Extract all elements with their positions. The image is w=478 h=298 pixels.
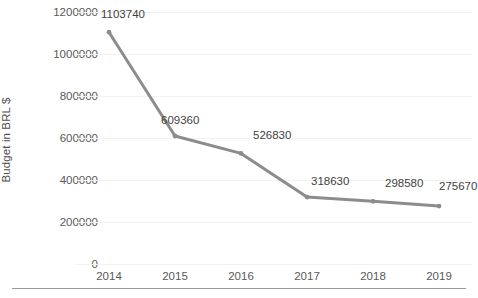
data-point-marker [173, 134, 178, 139]
x-tick-label: 2019 [409, 270, 469, 283]
data-point-label: 298580 [385, 177, 423, 189]
x-tick-label: 2015 [145, 270, 205, 283]
data-point-marker [107, 30, 112, 35]
x-tick-label: 2017 [277, 270, 337, 283]
data-point-marker [239, 151, 244, 156]
bottom-rule [12, 288, 466, 289]
x-axis-tick-labels: 201420152016201720182019 [76, 270, 472, 286]
data-point-label: 1103740 [101, 8, 145, 20]
data-point-marker [305, 195, 310, 200]
data-point-label: 318630 [311, 175, 349, 187]
data-point-label: 275670 [439, 180, 477, 192]
x-tick-label: 2016 [211, 270, 271, 283]
x-tick-label: 2014 [79, 270, 139, 283]
data-point-marker [437, 204, 442, 209]
line-chart: Budget in BRL $ 020000040000060000080000… [0, 0, 478, 298]
data-point-label: 609360 [161, 114, 199, 126]
data-point-marker [371, 199, 376, 204]
gridline [76, 264, 472, 265]
data-point-label: 526830 [253, 129, 291, 141]
x-tick-label: 2018 [343, 270, 403, 283]
